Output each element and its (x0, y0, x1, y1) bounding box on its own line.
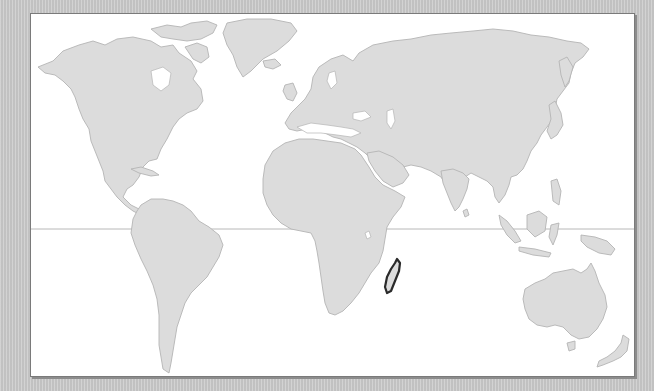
region-borneo[interactable] (527, 211, 547, 237)
region-south-america[interactable] (131, 199, 223, 373)
region-greenland[interactable] (223, 19, 297, 77)
region-australia[interactable] (523, 263, 607, 339)
region-philippines[interactable] (551, 179, 561, 205)
region-new-guinea[interactable] (581, 235, 615, 255)
region-new-zealand[interactable] (597, 335, 629, 367)
world-map (31, 14, 634, 376)
region-north-america[interactable] (38, 37, 203, 215)
map-frame (30, 13, 635, 377)
region-madagascar[interactable] (385, 259, 400, 293)
region-british-isles[interactable] (283, 83, 297, 101)
region-indian-subcontinent[interactable] (441, 169, 469, 211)
region-sulawesi[interactable] (549, 223, 559, 245)
region-sri-lanka[interactable] (463, 209, 469, 217)
region-canadian-arctic[interactable] (151, 21, 217, 41)
region-java[interactable] (519, 247, 551, 257)
region-iceland[interactable] (263, 59, 281, 69)
region-tasmania[interactable] (567, 341, 575, 351)
